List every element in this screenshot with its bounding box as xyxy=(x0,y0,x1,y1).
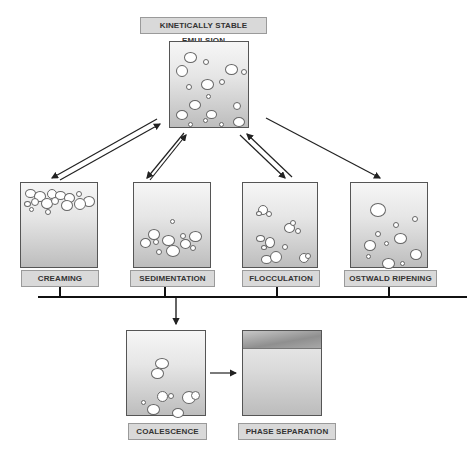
arrow-connectors xyxy=(0,0,467,454)
